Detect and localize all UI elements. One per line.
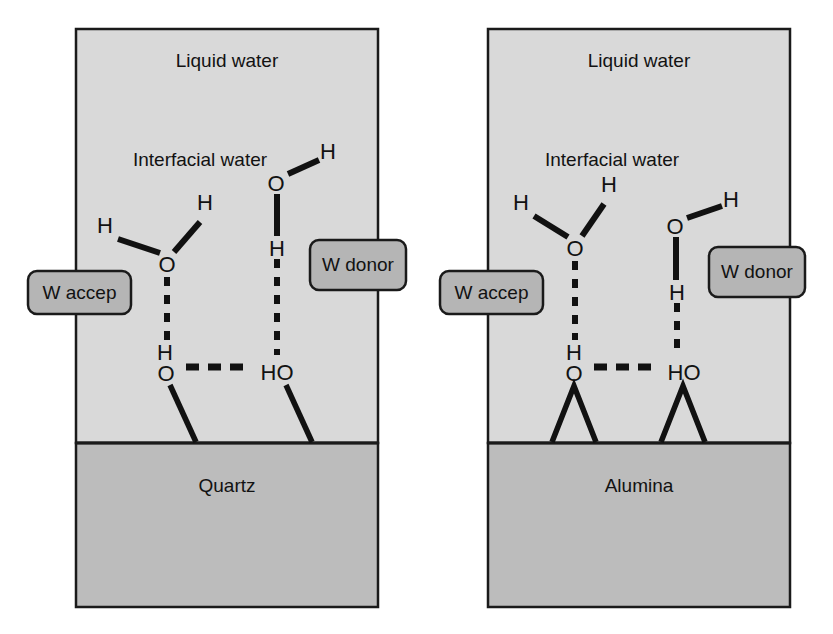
alumina-bulk-water-label: Liquid water — [588, 50, 691, 71]
quartz-atom-surface-ho-right: HO — [261, 360, 294, 385]
quartz-atom-donor-o: O — [267, 171, 284, 196]
alumina-atom-donor-o: O — [666, 214, 683, 239]
alumina-substrate-label: Alumina — [605, 475, 674, 496]
quartz-callout-w-donor-label: W donor — [322, 254, 394, 275]
quartz-water-region — [76, 29, 378, 443]
alumina-callout-w-accep[interactable]: W accep — [440, 271, 543, 314]
quartz-atom-accep-h-right: H — [197, 190, 213, 215]
alumina-callout-w-accep-label: W accep — [455, 282, 529, 303]
alumina-interfacial-water-label: Interfacial water — [545, 149, 680, 170]
alumina-atom-donor-h-upper: H — [723, 187, 739, 212]
alumina-atom-surface-o-left: O — [565, 361, 582, 386]
quartz-panel: Liquid water Interfacial water Quartz H … — [28, 29, 406, 607]
quartz-bulk-water-label: Liquid water — [176, 50, 279, 71]
quartz-atom-donor-h-lower: H — [269, 236, 285, 261]
alumina-substrate-region — [488, 443, 790, 607]
alumina-panel: Liquid water Interfacial water Alumina H… — [440, 29, 805, 607]
quartz-callout-w-accep-label: W accep — [43, 282, 117, 303]
alumina-water-region — [488, 29, 790, 443]
alumina-atom-accep-o: O — [566, 236, 583, 261]
quartz-callout-w-donor[interactable]: W donor — [310, 240, 406, 290]
alumina-atom-donor-h-lower: H — [669, 280, 685, 305]
alumina-atom-accep-h-right: H — [601, 172, 617, 197]
alumina-atom-accep-h-left: H — [513, 190, 529, 215]
quartz-atom-accep-h-left: H — [97, 213, 113, 238]
figure-root: Liquid water Interfacial water Quartz H … — [0, 0, 833, 634]
quartz-atom-accep-o: O — [158, 252, 175, 277]
quartz-substrate-label: Quartz — [198, 475, 255, 496]
quartz-atom-surface-o-left: O — [157, 361, 174, 386]
alumina-atom-surface-ho-right: HO — [668, 360, 701, 385]
quartz-atom-donor-h-upper: H — [320, 139, 336, 164]
diagram-canvas: Liquid water Interfacial water Quartz H … — [0, 0, 833, 634]
alumina-callout-w-donor-label: W donor — [721, 261, 793, 282]
quartz-callout-w-accep[interactable]: W accep — [28, 271, 131, 314]
quartz-substrate-region — [76, 443, 378, 607]
quartz-interfacial-water-label: Interfacial water — [133, 149, 268, 170]
alumina-callout-w-donor[interactable]: W donor — [709, 247, 805, 297]
